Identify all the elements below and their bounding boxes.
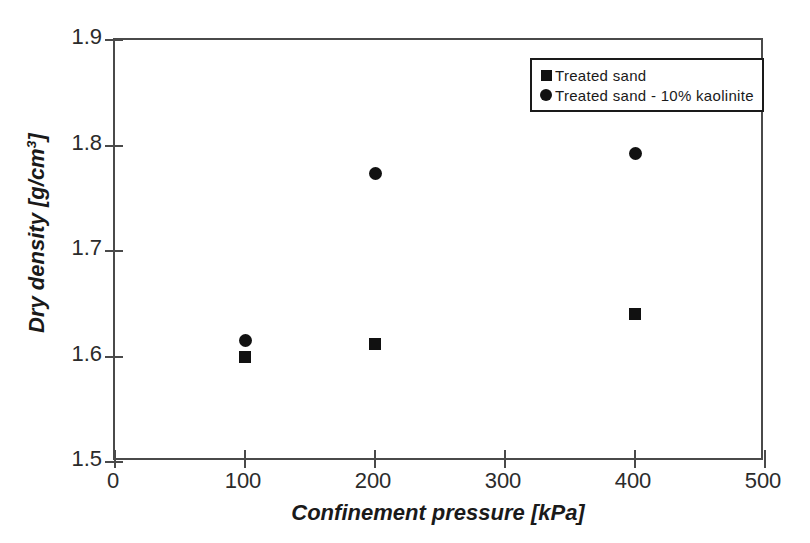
data-point-marker <box>629 147 642 160</box>
scatter-chart-figure: Dry density [g/cm3] Confinement pressure… <box>0 0 810 543</box>
y-tick-label: 1.5 <box>36 446 102 472</box>
x-tick-label: 200 <box>338 468 408 494</box>
x-tick-label: 300 <box>468 468 538 494</box>
y-tick-outer <box>105 250 114 252</box>
legend-item-label: Treated sand <box>554 67 646 84</box>
y-tick-outer <box>105 461 114 463</box>
x-tick-label: 100 <box>208 468 278 494</box>
y-tick-outer <box>105 356 114 358</box>
x-axis-title: Confinement pressure [kPa] <box>113 500 763 526</box>
x-tick-inner <box>374 450 376 459</box>
y-tick-inner <box>114 461 123 463</box>
y-tick-label: 1.9 <box>36 24 102 50</box>
x-tick-outer <box>244 459 246 468</box>
y-tick-inner <box>114 250 123 252</box>
legend-swatch <box>540 89 552 101</box>
x-tick-outer <box>504 459 506 468</box>
x-tick-outer <box>374 459 376 468</box>
x-tick-inner <box>764 450 766 459</box>
x-tick-inner <box>244 450 246 459</box>
x-tick-inner <box>634 450 636 459</box>
x-tick-inner <box>504 450 506 459</box>
data-point-marker <box>239 351 251 363</box>
y-tick-label: 1.6 <box>36 341 102 367</box>
y-tick-label: 1.7 <box>36 235 102 261</box>
data-point-marker <box>369 338 381 350</box>
legend: Treated sandTreated sand - 10% kaolinite <box>530 58 764 112</box>
plot-area: Treated sandTreated sand - 10% kaolinite <box>113 38 763 460</box>
legend-item: Treated sand - 10% kaolinite <box>538 85 754 105</box>
y-tick-outer <box>105 145 114 147</box>
data-point-marker <box>239 334 252 347</box>
y-tick-inner <box>114 39 123 41</box>
legend-circle-marker-icon <box>538 89 554 101</box>
y-tick-inner <box>114 145 123 147</box>
data-point-marker <box>629 308 641 320</box>
data-point-marker <box>369 167 382 180</box>
y-tick-outer <box>105 39 114 41</box>
legend-item: Treated sand <box>538 65 754 85</box>
x-tick-inner <box>114 450 116 459</box>
y-tick-inner <box>114 356 123 358</box>
x-tick-outer <box>634 459 636 468</box>
legend-item-label: Treated sand - 10% kaolinite <box>554 87 754 104</box>
x-tick-outer <box>764 459 766 468</box>
legend-square-marker-icon <box>538 70 554 81</box>
y-tick-label: 1.8 <box>36 130 102 156</box>
x-tick-label: 400 <box>598 468 668 494</box>
legend-swatch <box>541 70 552 81</box>
x-tick-label: 500 <box>728 468 798 494</box>
